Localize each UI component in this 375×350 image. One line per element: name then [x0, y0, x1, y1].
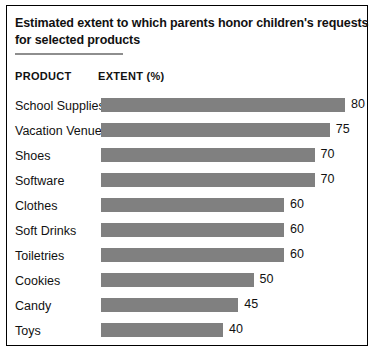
- bar-category-label: Vacation Venue: [15, 124, 102, 139]
- column-header-extent: EXTENT (%): [98, 70, 165, 82]
- chart-title-line-1: Estimated extent to which parents honor …: [15, 15, 345, 32]
- bar-track: 40: [101, 323, 363, 337]
- bar-row: Software70: [7, 171, 367, 196]
- bar-row: Toiletries60: [7, 246, 367, 271]
- title-divider: [15, 53, 123, 55]
- bar-row: Cookies50: [7, 271, 367, 296]
- bar-track: 50: [101, 273, 363, 287]
- bar-row: School Supplies80: [7, 96, 367, 121]
- bar-row: Vacation Venue75: [7, 121, 367, 146]
- bar-value-label: 80: [351, 97, 365, 112]
- bar-value-label: 45: [244, 297, 258, 312]
- column-header-product: PRODUCT: [15, 70, 72, 82]
- bar-fill: [101, 148, 315, 162]
- bar-fill: [101, 248, 284, 262]
- bar-row: Soft Drinks60: [7, 221, 367, 246]
- bar-row: Clothes60: [7, 196, 367, 221]
- bar-fill: [101, 198, 284, 212]
- bar-track: 70: [101, 148, 363, 162]
- bar-row: Toys40: [7, 321, 367, 346]
- bar-category-label: Shoes: [15, 149, 50, 164]
- bar-fill: [101, 298, 238, 312]
- bar-value-label: 60: [290, 222, 304, 237]
- bar-track: 75: [101, 123, 363, 137]
- bar-row: Shoes70: [7, 146, 367, 171]
- bar-track: 45: [101, 298, 363, 312]
- chart-card: Estimated extent to which parents honor …: [6, 5, 368, 346]
- bar-value-label: 50: [260, 272, 274, 287]
- bar-value-label: 70: [321, 147, 335, 162]
- bar-value-label: 75: [336, 122, 350, 137]
- bar-category-label: Candy: [15, 299, 51, 314]
- bar-fill: [101, 223, 284, 237]
- chart-title: Estimated extent to which parents honor …: [15, 15, 345, 49]
- chart-title-line-2: for selected products: [15, 32, 345, 49]
- bar-category-label: Clothes: [15, 199, 57, 214]
- bar-value-label: 40: [229, 322, 243, 337]
- bar-rows: School Supplies80Vacation Venue75Shoes70…: [7, 96, 367, 346]
- bar-value-label: 60: [290, 247, 304, 262]
- bar-fill: [101, 173, 315, 187]
- bar-value-label: 60: [290, 197, 304, 212]
- bar-category-label: School Supplies: [15, 99, 105, 114]
- bar-row: Candy45: [7, 296, 367, 321]
- bar-fill: [101, 273, 254, 287]
- bar-category-label: Software: [15, 174, 64, 189]
- bar-fill: [101, 323, 223, 337]
- bar-category-label: Toys: [15, 324, 41, 339]
- bar-track: 60: [101, 198, 363, 212]
- bar-category-label: Cookies: [15, 274, 60, 289]
- bar-value-label: 70: [321, 172, 335, 187]
- bar-fill: [101, 123, 330, 137]
- bar-track: 60: [101, 223, 363, 237]
- bar-fill: [101, 98, 345, 112]
- column-header-row: PRODUCT EXTENT (%): [15, 70, 355, 86]
- bar-category-label: Soft Drinks: [15, 224, 76, 239]
- bar-category-label: Toiletries: [15, 249, 64, 264]
- bar-track: 70: [101, 173, 363, 187]
- bar-track: 60: [101, 248, 363, 262]
- bar-track: 80: [101, 98, 363, 112]
